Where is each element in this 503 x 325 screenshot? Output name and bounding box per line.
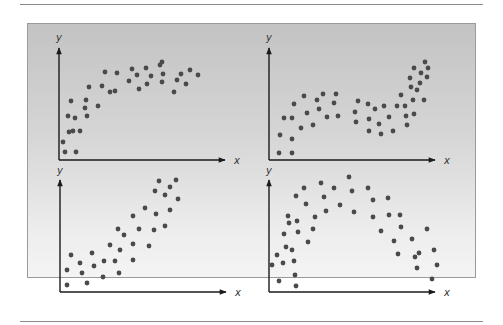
data-point [157, 179, 162, 184]
data-point [313, 215, 318, 220]
data-point [367, 117, 372, 122]
data-point [281, 261, 286, 266]
data-point [122, 233, 127, 238]
data-point [147, 244, 152, 249]
data-point [117, 271, 122, 276]
data-point [354, 120, 359, 125]
data-point [131, 242, 136, 247]
data-point [85, 281, 90, 286]
data-point [168, 185, 173, 190]
data-point [415, 266, 420, 271]
data-point [179, 72, 184, 77]
data-point [302, 186, 307, 191]
data-point [391, 129, 396, 134]
data-point [371, 215, 376, 220]
data-point [411, 98, 416, 103]
plot-top-left: y x [55, 32, 240, 166]
data-point [131, 258, 136, 263]
data-point [100, 84, 105, 89]
data-point [430, 277, 435, 282]
data-point [174, 178, 179, 183]
data-point [373, 107, 378, 112]
data-point [160, 60, 165, 65]
data-point [334, 92, 339, 97]
data-point [321, 92, 326, 97]
data-point [293, 273, 298, 278]
data-point [366, 102, 371, 107]
data-point [143, 206, 148, 211]
data-point [319, 181, 324, 186]
data-point [396, 252, 401, 257]
data-point [284, 245, 289, 250]
data-point [153, 189, 158, 194]
data-point [292, 102, 297, 107]
data-point [163, 193, 168, 198]
data-point [306, 240, 311, 245]
data-point [425, 227, 430, 232]
data-point [419, 71, 424, 76]
data-point [63, 150, 68, 155]
data-point [78, 261, 83, 266]
data-point [176, 197, 181, 202]
data-point [395, 104, 400, 109]
data-point [130, 67, 135, 72]
data-point [423, 60, 428, 65]
data-point [413, 255, 418, 260]
data-point [305, 111, 310, 116]
data-point [277, 279, 282, 284]
data-point [295, 219, 300, 224]
data-point [137, 227, 142, 232]
data-point [353, 110, 358, 115]
data-point [332, 101, 337, 106]
data-point [65, 268, 70, 273]
scatter-points [270, 175, 440, 289]
data-point [113, 89, 118, 94]
data-point [135, 73, 140, 78]
data-point [408, 76, 413, 81]
data-point [96, 104, 101, 109]
data-point [287, 221, 292, 226]
data-point [286, 214, 291, 219]
x-axis-label: x [443, 155, 450, 166]
data-point [404, 114, 409, 119]
y-axis-label: y [265, 32, 273, 43]
data-point [317, 107, 322, 112]
scatter-points [277, 60, 431, 156]
data-point [336, 114, 341, 119]
plot-bottom-right: y x [265, 165, 450, 298]
data-point [116, 227, 121, 232]
data-point [152, 228, 157, 233]
data-point [275, 253, 280, 258]
data-point [403, 104, 408, 109]
data-point [168, 208, 173, 213]
data-point [102, 259, 107, 264]
data-point [74, 150, 79, 155]
data-point [432, 248, 437, 253]
data-point [324, 209, 329, 214]
data-point [144, 66, 149, 71]
data-point [294, 284, 299, 289]
data-point [296, 230, 301, 235]
data-point [282, 116, 287, 121]
x-axis-label: x [234, 287, 241, 298]
data-point [87, 85, 92, 90]
data-point [409, 85, 414, 90]
data-point [422, 98, 427, 103]
data-point [299, 126, 304, 131]
data-point [377, 122, 382, 127]
data-point [294, 194, 299, 199]
data-point [90, 251, 95, 256]
data-point [311, 123, 316, 128]
data-point [412, 66, 417, 71]
data-point [387, 115, 392, 120]
y-axis-label: y [55, 32, 63, 43]
data-point [350, 189, 355, 194]
data-point [108, 243, 113, 248]
data-point [304, 202, 309, 207]
data-point [399, 93, 404, 98]
data-point [290, 116, 295, 121]
data-point [103, 70, 108, 75]
data-point [371, 198, 376, 203]
data-point [67, 130, 72, 135]
data-point [188, 68, 193, 73]
